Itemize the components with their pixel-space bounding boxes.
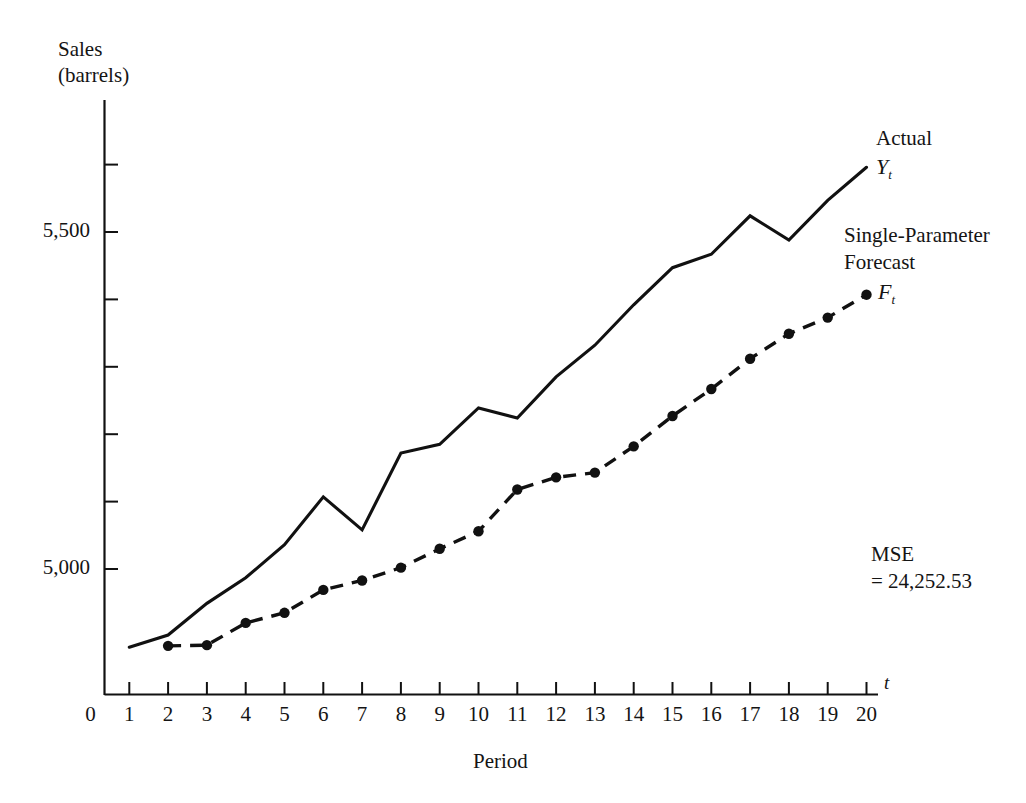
forecast-marker-12 <box>551 472 561 482</box>
x-tick-label-16: 16 <box>691 702 731 727</box>
mse-annotation: MSE = 24,252.53 <box>871 541 972 595</box>
forecast-marker-16 <box>706 384 716 394</box>
x-tick-label-11: 11 <box>497 702 537 727</box>
forecast-marker-4 <box>241 618 251 628</box>
forecast-marker-3 <box>202 640 212 650</box>
x-tick-label-12: 12 <box>536 702 576 727</box>
y-axis-title: Sales (barrels) <box>58 36 129 88</box>
legend-label-forecast-line2: Forecast <box>844 249 990 276</box>
x-tick-label-6: 6 <box>303 702 343 727</box>
forecast-marker-9 <box>435 544 445 554</box>
x-axis-title: Period <box>473 749 528 774</box>
axes <box>105 100 879 695</box>
x-tick-label-10: 10 <box>459 702 499 727</box>
legend-symbol-actual-letter: Y <box>876 154 888 179</box>
x-tick-label-4: 4 <box>226 702 266 727</box>
x-axis-symbol: t <box>884 672 889 694</box>
forecast-marker-10 <box>473 526 483 536</box>
x-tick-label-17: 17 <box>730 702 770 727</box>
legend-label-forecast: Single-Parameter Forecast <box>844 222 990 276</box>
series-line-actual <box>129 167 866 647</box>
chart-plot-area <box>0 0 1026 803</box>
forecast-marker-6 <box>318 585 328 595</box>
x-tick-label-18: 18 <box>769 702 809 727</box>
x-tick-label-8: 8 <box>381 702 421 727</box>
x-axis-ticks <box>129 682 866 695</box>
forecast-marker-15 <box>667 411 677 421</box>
forecast-marker-5 <box>279 608 289 618</box>
x-tick-label-20: 20 <box>847 702 887 727</box>
legend-symbol-forecast-letter: F <box>878 279 891 304</box>
series-line-forecast <box>168 295 866 646</box>
x-tick-label-0: 0 <box>71 702 111 727</box>
x-tick-label-9: 9 <box>420 702 460 727</box>
x-tick-label-1: 1 <box>109 702 149 727</box>
forecast-marker-14 <box>629 441 639 451</box>
forecast-marker-20 <box>861 289 871 299</box>
x-tick-label-19: 19 <box>808 702 848 727</box>
mse-value: = 24,252.53 <box>871 568 972 595</box>
x-tick-label-7: 7 <box>342 702 382 727</box>
forecast-marker-11 <box>512 484 522 494</box>
legend-label-forecast-line1: Single-Parameter <box>844 222 990 249</box>
forecast-marker-19 <box>823 312 833 322</box>
forecast-marker-7 <box>357 575 367 585</box>
series-markers-forecast <box>163 289 872 651</box>
y-tick-label-5,500: 5,500 <box>0 218 104 243</box>
chart-figure: Sales (barrels) Period t Actual Yt Singl… <box>0 0 1026 803</box>
mse-label: MSE <box>871 541 972 568</box>
legend-label-actual: Actual <box>876 125 932 152</box>
x-tick-label-2: 2 <box>148 702 188 727</box>
legend-symbol-forecast-sub: t <box>891 292 895 307</box>
forecast-marker-2 <box>163 641 173 651</box>
forecast-marker-8 <box>396 562 406 572</box>
forecast-marker-17 <box>745 354 755 364</box>
x-tick-label-3: 3 <box>187 702 227 727</box>
forecast-marker-13 <box>590 467 600 477</box>
forecast-marker-18 <box>784 329 794 339</box>
y-tick-label-5,000: 5,000 <box>0 555 104 580</box>
x-tick-label-15: 15 <box>653 702 693 727</box>
y-axis-title-line1: Sales <box>58 36 129 62</box>
y-axis-title-line2: (barrels) <box>58 62 129 88</box>
x-tick-label-14: 14 <box>614 702 654 727</box>
y-axis-ticks <box>105 165 119 569</box>
legend-symbol-actual-sub: t <box>888 167 892 182</box>
x-tick-label-13: 13 <box>575 702 615 727</box>
x-tick-label-5: 5 <box>265 702 305 727</box>
legend-symbol-forecast: Ft <box>878 279 895 308</box>
legend-symbol-actual: Yt <box>876 154 892 183</box>
